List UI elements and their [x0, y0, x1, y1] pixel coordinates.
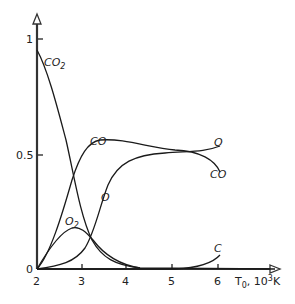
chart-canvas: 1 0.5 0 2 3 4 5 6 T0, 103K CO2 CO O CO O… — [0, 0, 295, 304]
x-tick-label-6: 6 — [214, 275, 221, 288]
y-tick-label-1: 1 — [26, 33, 33, 46]
y-axis-arrow-icon — [33, 14, 41, 24]
label-co2: CO2 — [44, 56, 65, 71]
label-co-right: CO — [210, 168, 227, 181]
y-tick-label-05: 0.5 — [16, 149, 34, 162]
y-tick-label-0: 0 — [26, 263, 33, 276]
curve-o2 — [37, 228, 140, 269]
curve-co2 — [37, 50, 275, 269]
x-tick-label-4: 4 — [122, 275, 129, 288]
label-o-right: O — [214, 136, 223, 149]
curve-co — [37, 140, 220, 269]
x-tick-label-3: 3 — [78, 275, 85, 288]
x-axis-title: T0, 103K — [234, 274, 281, 290]
label-co-top: CO — [90, 135, 107, 148]
label-o2: O2 — [65, 215, 79, 230]
x-tick-label-2: 2 — [33, 275, 40, 288]
curve-c — [37, 255, 220, 269]
x-tick-label-5: 5 — [168, 275, 175, 288]
label-c: C — [214, 242, 222, 255]
label-o-mid: O — [101, 191, 110, 204]
